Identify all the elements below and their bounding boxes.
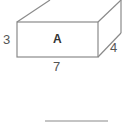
- height-label: 3: [3, 33, 10, 46]
- depth-label: 4: [110, 41, 117, 54]
- box-diagram: [0, 0, 126, 122]
- face-label: A: [53, 33, 62, 45]
- top-left-edge: [17, 0, 50, 22]
- top-right-edge: [98, 0, 121, 22]
- length-label: 7: [53, 60, 60, 73]
